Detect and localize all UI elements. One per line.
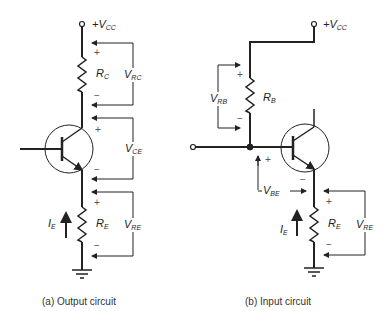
rc-minus-sign: − — [94, 91, 100, 101]
ground-a — [72, 270, 92, 278]
re-plus-sign-a: + — [94, 198, 100, 208]
vrc-label: VRC — [124, 68, 141, 82]
ground-b — [304, 268, 324, 276]
rb-label: RB — [263, 92, 276, 104]
re-minus-sign-b: − — [326, 240, 332, 250]
re-minus-sign-a: − — [94, 241, 100, 251]
caption-b: (b) Input circuit — [245, 296, 311, 307]
rc-label: RC — [96, 68, 109, 80]
re-plus-sign-b: + — [326, 197, 332, 207]
vre-label-b: VRE — [356, 218, 373, 232]
rc-resistor — [78, 57, 86, 92]
re-resistor-a — [78, 207, 86, 242]
vcc-label-b: +VCC — [323, 19, 347, 31]
vre-label-a: VRE — [124, 218, 141, 232]
rb-minus-sign: − — [237, 114, 243, 124]
re-label-b: RE — [328, 218, 341, 230]
rb-resistor — [246, 78, 254, 113]
ie-label-b: IE — [280, 224, 288, 236]
panel-b-input-circuit — [191, 22, 366, 277]
vce-label: VCE — [125, 142, 142, 156]
input-terminal — [191, 145, 196, 150]
vce-plus-sign: + — [95, 125, 101, 135]
vbe-label: VBE — [263, 185, 280, 197]
vce-minus-sign: − — [94, 165, 100, 175]
re-label-a: RE — [96, 218, 109, 230]
re-resistor-b — [310, 207, 318, 242]
vcc-terminal-a — [80, 22, 85, 27]
rc-plus-sign: + — [94, 48, 100, 58]
vrb-label: VRB — [210, 92, 227, 106]
caption-a: (a) Output circuit — [42, 296, 116, 307]
ie-label-a: IE — [48, 218, 56, 230]
vcc-terminal-b — [312, 22, 317, 27]
vcc-label-a: +VCC — [92, 19, 116, 31]
circuit-diagram — [0, 0, 389, 311]
rb-plus-sign: + — [237, 70, 243, 80]
panel-a-output-circuit — [20, 22, 133, 279]
vbe-minus-sign: − — [300, 175, 306, 185]
vbe-plus-sign: + — [265, 155, 271, 165]
